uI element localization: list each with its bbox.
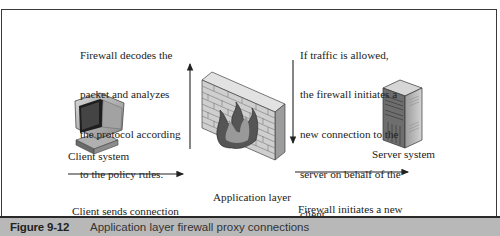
decode-line-3: the protocol according [80,128,181,141]
figure-number: Figure 9-12 [10,221,69,233]
figure-caption: Application layer firewall proxy connect… [90,221,309,233]
client-system-label: Client system [68,150,129,163]
figure-caption-bar: Figure 9-12 Application layer firewall p… [0,216,500,236]
allowed-line-3: new connection to the [300,128,401,141]
allowed-line-1: If traffic is allowed, [300,49,401,62]
decode-line-1: Firewall decodes the [80,49,181,62]
firewall-brick-wall-icon [202,72,285,160]
server-system-label: Server system [372,148,435,161]
allowed-line-2: the firewall initiates a [300,88,401,101]
decode-line-2: packet and analyzes [80,88,181,101]
decode-annotation: Firewall decodes the packet and analyzes… [80,22,181,195]
firewall-new-line-1: Firewall initiates a new [298,203,407,216]
firewall-label-line-1: Application layer [202,191,302,204]
